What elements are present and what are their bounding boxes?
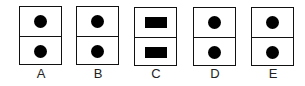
circle-icon: [91, 15, 104, 28]
circle-icon: [266, 46, 279, 59]
rectangle-icon: [145, 17, 167, 28]
option-b[interactable]: [76, 6, 119, 65]
option-c[interactable]: [134, 7, 177, 66]
option-d-label: D: [193, 66, 237, 81]
option-b-label: B: [76, 66, 120, 81]
option-e[interactable]: [251, 7, 294, 66]
option-e-label: E: [251, 66, 295, 81]
top-cell: [194, 8, 235, 36]
bottom-cell: [77, 36, 118, 65]
top-cell: [252, 8, 293, 36]
bottom-cell: [135, 37, 176, 66]
option-a-box: [19, 6, 62, 65]
top-cell: [135, 8, 176, 36]
option-c-box: [134, 7, 177, 66]
circle-icon: [34, 45, 47, 58]
circle-icon: [266, 16, 279, 29]
circle-icon: [34, 15, 47, 28]
bottom-cell: [194, 37, 235, 66]
circle-icon: [208, 46, 221, 59]
top-cell: [20, 7, 61, 35]
top-cell: [77, 7, 118, 35]
option-a[interactable]: [19, 6, 62, 65]
option-b-box: [76, 6, 119, 65]
circle-icon: [208, 16, 221, 29]
option-e-box: [251, 7, 294, 66]
bottom-cell: [20, 36, 61, 65]
option-d-box: [193, 7, 236, 66]
option-a-label: A: [19, 66, 63, 81]
circle-icon: [91, 45, 104, 58]
option-c-label: C: [134, 66, 178, 81]
bottom-cell: [252, 37, 293, 66]
rectangle-icon: [145, 47, 167, 58]
option-d[interactable]: [193, 7, 236, 66]
